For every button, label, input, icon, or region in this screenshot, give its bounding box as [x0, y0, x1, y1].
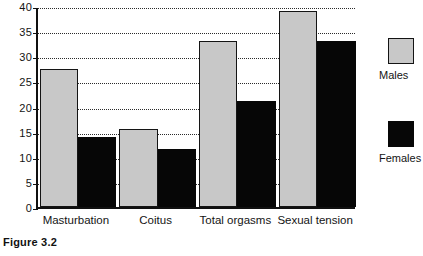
- bar-females: [78, 137, 116, 207]
- y-axis-tick-label: 25: [6, 77, 32, 88]
- bar-females: [317, 41, 355, 207]
- bar-group: [199, 8, 276, 207]
- x-axis-category-labels: MasturbationCoitusTotal orgasmsSexual te…: [36, 212, 355, 234]
- legend-label-females: Females: [378, 152, 423, 165]
- x-axis-label: Total orgasms: [196, 212, 276, 228]
- bar-females: [237, 101, 275, 207]
- y-axis-tick-label: 40: [6, 2, 32, 13]
- bar-group: [119, 8, 196, 207]
- bar-males: [199, 41, 237, 207]
- legend-entry-females: Females: [378, 121, 423, 165]
- y-axis-tick-label: 15: [6, 128, 32, 139]
- y-axis-tick-label: 5: [6, 178, 32, 189]
- plot-area: [36, 8, 355, 209]
- y-axis-tick-label: 30: [6, 52, 32, 63]
- y-axis-tick-labels: 0510152025303540: [0, 0, 32, 215]
- bar-group: [279, 8, 356, 207]
- bar-group: [40, 8, 117, 207]
- legend-swatch-females: [388, 121, 414, 147]
- y-axis-tick-label: 20: [6, 103, 32, 114]
- figure-3-2: 0510152025303540 MasturbationCoitusTotal…: [0, 0, 423, 256]
- bar-females: [158, 149, 196, 207]
- y-axis-tick-label: 35: [6, 27, 32, 38]
- bar-males: [119, 129, 157, 207]
- bars-layer: [38, 8, 355, 207]
- figure-caption: Figure 3.2: [3, 236, 57, 248]
- bar-males: [279, 11, 317, 207]
- legend-label-males: Males: [378, 69, 423, 82]
- y-axis-tick-mark: [33, 209, 38, 210]
- legend-entry-males: Males: [378, 38, 423, 82]
- legend-swatch-males: [388, 38, 414, 64]
- x-axis-label: Coitus: [116, 212, 196, 228]
- x-axis-label: Masturbation: [36, 212, 116, 228]
- y-axis-tick-label: 0: [6, 203, 32, 214]
- y-axis-tick-label: 10: [6, 153, 32, 164]
- bar-males: [40, 69, 78, 207]
- x-axis-label: Sexual tension: [275, 212, 355, 228]
